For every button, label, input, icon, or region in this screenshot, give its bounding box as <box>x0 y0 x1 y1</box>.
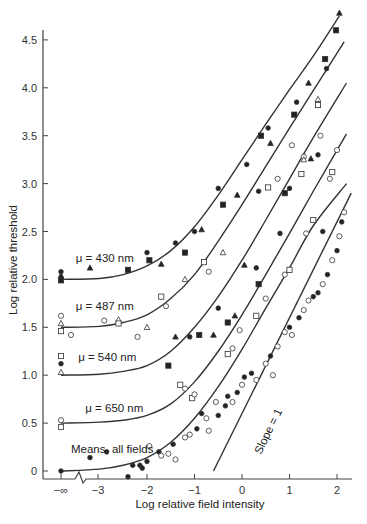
data-point-circle <box>163 304 168 309</box>
fit-curve <box>61 184 347 471</box>
data-point-triangle <box>211 332 217 337</box>
data-point-circle <box>195 427 200 432</box>
data-point-square <box>225 352 230 357</box>
data-point-circle <box>237 328 242 333</box>
y-tick-label: 2.5 <box>22 226 37 238</box>
data-point-circle <box>242 375 247 380</box>
data-point-triangle <box>173 334 179 339</box>
data-point-triangle <box>220 250 226 255</box>
data-point-circle <box>68 332 73 337</box>
data-point-circle <box>304 231 309 236</box>
data-point-circle <box>311 294 316 299</box>
data-point-square <box>287 267 292 272</box>
data-point-square <box>258 133 263 138</box>
data-point-square <box>182 250 187 255</box>
data-point-triangle <box>158 261 164 266</box>
x-axis-title: Log relative field intensity <box>135 498 264 510</box>
curve-labels: μ = 430 nmμ = 487 nmμ = 540 nmμ = 650 nm… <box>71 252 154 455</box>
data-point-square <box>58 353 63 358</box>
data-point-square <box>147 258 152 263</box>
data-point-circle <box>316 291 321 296</box>
data-point-circle <box>337 234 342 239</box>
data-point-circle <box>254 377 259 382</box>
x-tick-label: −3 <box>92 484 105 496</box>
y-tick-label: 1.0 <box>22 369 37 381</box>
data-point-square <box>201 260 206 265</box>
x-tick-label: −∞ <box>54 484 68 496</box>
data-point-triangle <box>232 313 238 318</box>
data-point-circle <box>294 100 299 105</box>
data-point-square <box>178 382 183 387</box>
data-point-circle <box>230 399 235 404</box>
data-point-circle <box>58 313 63 318</box>
data-point-circle <box>216 306 221 311</box>
data-point-circle <box>182 386 187 391</box>
data-point-circle <box>278 231 283 236</box>
data-point-triangle <box>144 324 150 329</box>
y-tick-label: 4.0 <box>22 82 37 94</box>
data-point-square <box>299 171 304 176</box>
data-point-square <box>254 313 259 318</box>
x-tick-label: −2 <box>141 484 154 496</box>
data-point-square <box>256 282 261 287</box>
data-point-circle <box>320 229 325 234</box>
y-tick-label: 2.0 <box>22 273 37 285</box>
series-label: μ = 430 nm <box>76 252 134 264</box>
x-tick-label: −1 <box>188 484 201 496</box>
data-point-square <box>116 321 121 326</box>
data-point-circle <box>187 432 192 437</box>
y-axis-title: Log relative threshold <box>7 205 19 315</box>
data-point-circle <box>244 162 249 167</box>
data-point-triangle <box>306 80 312 85</box>
data-point-circle <box>334 147 339 152</box>
data-point-triangle <box>268 140 274 145</box>
data-point-triangle <box>315 96 321 101</box>
data-point-circle <box>159 453 164 458</box>
data-point-circle <box>306 298 311 303</box>
y-tick-label: 0 <box>31 465 37 477</box>
series-label: μ = 487 nm <box>76 300 134 312</box>
data-point-circle <box>126 474 131 479</box>
data-point-circle <box>192 229 197 234</box>
data-point-circle <box>325 272 330 277</box>
data-point-triangle <box>182 276 188 281</box>
data-point-square <box>125 267 130 272</box>
data-point-circle <box>287 186 292 191</box>
data-point-circle <box>216 413 221 418</box>
data-point-circle <box>225 394 230 399</box>
x-tick-label: 0 <box>239 484 245 496</box>
data-point-circle <box>213 399 218 404</box>
data-point-square <box>292 112 297 117</box>
data-point-circle <box>206 269 211 274</box>
y-tick-label: 0.5 <box>22 417 37 429</box>
data-point-square <box>323 56 328 61</box>
data-point-circle <box>230 346 235 351</box>
data-point-circle <box>58 418 63 423</box>
fit-curve <box>61 83 347 375</box>
data-point-circle <box>173 241 178 246</box>
threshold-vs-field-chart: 00.51.01.52.02.53.03.54.04.5−∞−3−2−1012 … <box>0 0 367 524</box>
data-point-square <box>166 363 171 368</box>
data-point-circle <box>266 126 271 131</box>
data-point-square <box>58 424 63 429</box>
data-point-circle <box>88 455 93 460</box>
data-point-circle <box>145 459 150 464</box>
data-point-circle <box>171 442 176 447</box>
data-point-circle <box>254 266 259 271</box>
data-point-circle <box>268 354 273 359</box>
data-point-square <box>220 202 225 207</box>
data-point-circle <box>199 411 204 416</box>
data-point-circle <box>263 296 268 301</box>
data-point-circle <box>263 361 268 366</box>
data-point-circle <box>289 332 294 337</box>
data-point-circle <box>145 250 150 255</box>
series-label: μ = 650 nm <box>85 402 143 414</box>
data-point-triangle <box>242 262 248 267</box>
data-point-circle <box>287 325 292 330</box>
data-point-circle <box>275 344 280 349</box>
data-point-circle <box>206 428 211 433</box>
data-point-circle <box>339 220 344 225</box>
data-point-circle <box>301 307 306 312</box>
data-point-triangle <box>234 192 240 197</box>
data-point-circle <box>335 248 340 253</box>
